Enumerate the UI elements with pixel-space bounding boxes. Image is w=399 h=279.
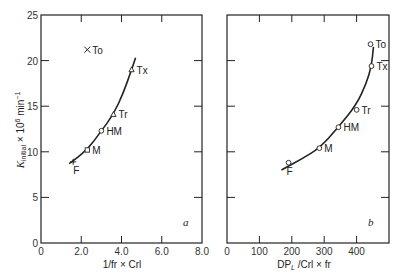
data-point-label: Tx	[377, 61, 388, 72]
triangle-marker-icon	[111, 112, 116, 117]
data-point-label: M	[92, 145, 100, 156]
svg-text:Kinitial × 106 min−1: Kinitial × 106 min−1	[14, 92, 27, 170]
panel-a: 02.04.06.08.00510152025FMHMTrTxTo	[27, 10, 210, 257]
y-tick-label: 25	[27, 10, 39, 21]
data-point-label: HM	[343, 122, 359, 133]
plot-frame	[227, 15, 389, 243]
data-point-to: To	[368, 39, 386, 50]
x-tick-label: 2.0	[74, 246, 88, 257]
y-tick-label: 10	[27, 147, 39, 158]
panel-b: 0100200300400FMHMTrTxTo	[224, 15, 389, 257]
data-point-label: Tx	[137, 65, 148, 76]
x-axis-label-b: DPL /Crl × fr	[277, 259, 331, 271]
data-point-hm: HM	[336, 122, 359, 133]
y-tick-label: 15	[27, 101, 39, 112]
circle-marker-icon	[354, 107, 359, 112]
data-point-tr: Tr	[111, 109, 128, 120]
chart-figure: 02.04.06.08.00510152025FMHMTrTxTo 010020…	[0, 0, 399, 279]
panel-letter-b: b	[368, 216, 374, 228]
x-tick-label: 4.0	[115, 246, 129, 257]
data-point-label: M	[324, 143, 332, 154]
circle-marker-icon	[317, 146, 322, 151]
data-point-to: To	[84, 45, 103, 56]
x-tick-label: 300	[316, 246, 333, 257]
data-point-tr: Tr	[354, 105, 371, 116]
data-point-tx: Tx	[129, 65, 148, 76]
circle-marker-icon	[369, 64, 374, 69]
x-tick-label: 200	[283, 246, 300, 257]
circle-marker-icon	[336, 125, 341, 130]
x-axis-label-a: 1/fr × Crl	[103, 259, 142, 270]
circle-marker-icon	[99, 128, 104, 133]
triangle-marker-icon	[129, 67, 134, 72]
circle-marker-icon	[286, 160, 291, 165]
data-point-m: M	[85, 145, 101, 156]
x-tick-label: 6.0	[155, 246, 169, 257]
data-point-label: Tr	[118, 109, 128, 120]
y-tick-label: 20	[27, 56, 39, 67]
x-tick-label: 100	[251, 246, 268, 257]
data-point-label: To	[92, 45, 103, 56]
x-tick-label: 0	[224, 246, 230, 257]
data-point-label: HM	[106, 126, 122, 137]
circle-marker-icon	[368, 42, 373, 47]
x-tick-label: 8.0	[195, 246, 209, 257]
panel-letter-a: a	[183, 216, 189, 228]
y-axis-label: Kinitial × 106 min−1	[14, 92, 27, 170]
x-tick-label: 0	[38, 246, 44, 257]
data-point-f: F	[286, 160, 293, 176]
y-tick-label: 0	[32, 238, 38, 249]
data-point-label: To	[376, 39, 387, 50]
data-point-f: F	[70, 159, 79, 176]
y-tick-label: 5	[32, 192, 38, 203]
x-tick-label: 400	[348, 246, 365, 257]
data-point-label: F	[73, 165, 79, 176]
data-point-m: M	[317, 143, 333, 154]
data-point-hm: HM	[99, 126, 122, 137]
data-point-label: Tr	[362, 105, 372, 116]
data-point-label: F	[287, 166, 293, 177]
square-marker-icon	[85, 148, 89, 152]
